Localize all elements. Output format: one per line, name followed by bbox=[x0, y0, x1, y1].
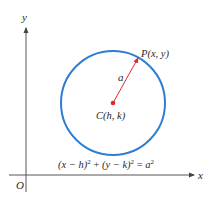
eq-equals: = bbox=[134, 159, 145, 170]
eq-plus: + bbox=[91, 159, 102, 170]
center-point bbox=[111, 101, 116, 106]
x-axis-label: x bbox=[197, 169, 203, 181]
radius-arrow bbox=[113, 58, 138, 103]
center-label: C(h, k) bbox=[96, 110, 126, 122]
circle-equation: (x − h)2 + (y − k)2 = a2 bbox=[58, 158, 155, 171]
radius-label: a bbox=[118, 71, 124, 83]
eq-exp-3: 2 bbox=[151, 158, 155, 166]
y-axis-label: y bbox=[21, 11, 27, 23]
circle-equation-diagram: y x O a C(h, k) P(x, y) (x − h)2 + (y − … bbox=[0, 0, 217, 200]
eq-term-y: (y − k) bbox=[102, 159, 131, 171]
origin-label: O bbox=[16, 179, 24, 191]
point-label: P(x, y) bbox=[140, 48, 169, 60]
eq-term-x: (x − h) bbox=[58, 159, 88, 171]
